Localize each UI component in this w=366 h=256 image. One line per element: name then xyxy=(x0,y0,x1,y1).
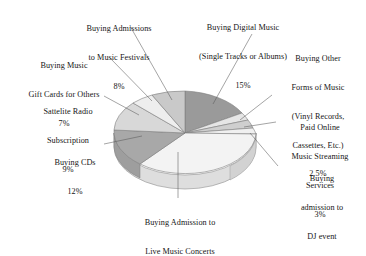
label-line: Buying Other xyxy=(272,54,364,64)
pie-chart-figure: Buying Admissions to Music Festivals 8% … xyxy=(0,0,366,256)
label-percent: 12% xyxy=(20,187,130,197)
label-line: DJ event xyxy=(280,232,364,242)
label-line: Live Music Concerts xyxy=(112,247,248,256)
label-line: Buying Admission to xyxy=(112,218,248,228)
label-line: Buying Music xyxy=(2,61,126,71)
label-line: Buying Digital Music xyxy=(180,23,306,33)
slice-label-dj-event: Buying admission to DJ event 3.5% xyxy=(280,155,364,256)
label-line: Buying xyxy=(280,174,364,184)
label-line: admission to xyxy=(280,203,364,213)
label-line: Buying CDs xyxy=(20,158,130,168)
label-line: Buying Admissions xyxy=(52,24,186,34)
slice-label-live-music-concerts: Buying Admission to Live Music Concerts … xyxy=(112,199,248,256)
label-line: Paid Online xyxy=(276,123,364,133)
label-line: Forms of Music xyxy=(272,83,364,93)
label-line: Sattelite Radio xyxy=(12,107,124,117)
